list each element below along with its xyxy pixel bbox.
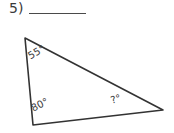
triangle-figure — [0, 0, 174, 133]
worksheet-problem: 5) 55° 80° ?° — [0, 0, 174, 133]
